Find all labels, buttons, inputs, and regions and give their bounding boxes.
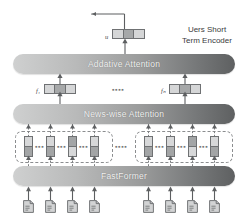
output-vector-label: u — [105, 33, 108, 40]
news-vector-cell — [191, 85, 200, 93]
layer-news-wise-attention-label: News-wise Attention — [84, 109, 164, 119]
token-group-right-connectors — [0, 122, 249, 168]
news-vector-ellipsis: ▪▪▪▪ — [112, 86, 124, 93]
document-icon — [165, 200, 176, 213]
document-icon — [67, 200, 78, 213]
layer-fastformer-label: FastFormer — [101, 171, 147, 181]
layer-news-wise-attention[interactable]: News-wise Attention — [13, 104, 235, 124]
document-icon — [45, 200, 56, 213]
encoder-title: Uers Short Term Encoder — [168, 24, 246, 46]
news-vector-last-arrows — [178, 73, 192, 105]
document-icon — [89, 200, 100, 213]
output-vector-cell — [113, 30, 124, 38]
layer-fastformer[interactable]: FastFormer — [13, 166, 235, 186]
addative-to-output-arrow — [118, 38, 132, 55]
encoder-title-line2: Term Encoder — [168, 35, 246, 46]
layer-addative-attention-label: Addative Attention — [88, 59, 160, 69]
news-vector-label-last: fₙ — [161, 87, 166, 95]
layer-addative-attention[interactable]: Addative Attention — [13, 54, 235, 74]
news-vector-first-arrows — [53, 73, 67, 105]
encoder-title-line1: Uers Short — [168, 24, 246, 35]
news-vector-label-first: f₁ — [36, 87, 40, 94]
news-vector-cell — [66, 85, 75, 93]
document-icon — [143, 200, 154, 213]
architecture-diagram: u Uers Short Term Encoder Addative Atten… — [0, 0, 249, 219]
document-icon — [187, 200, 198, 213]
output-vector-cell — [124, 30, 135, 38]
output-vector-cell — [134, 30, 144, 38]
document-icon — [23, 200, 34, 213]
document-input-arrows — [0, 186, 249, 200]
document-icon — [209, 200, 220, 213]
